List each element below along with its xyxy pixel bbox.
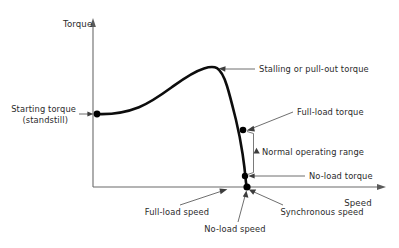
no-load-speed-label: No-load speed bbox=[204, 224, 265, 234]
full-load-speed-arrowhead bbox=[219, 189, 227, 195]
normal-operating-range-bracket bbox=[247, 132, 260, 175]
starting-torque-label-line1: Starting torque bbox=[11, 104, 76, 114]
synchronous-speed-point bbox=[243, 183, 250, 190]
starting-torque-point bbox=[94, 111, 101, 118]
no-load-speed-leader bbox=[238, 191, 248, 222]
synchronous-speed-leader-line bbox=[254, 192, 283, 205]
no-load-speed-leader-line bbox=[238, 196, 245, 222]
no-load-speed-arrowhead bbox=[243, 191, 249, 198]
synchronous-speed-leader bbox=[249, 189, 283, 205]
torque-speed-curve bbox=[97, 67, 247, 187]
no-load-torque-point bbox=[242, 173, 248, 179]
full-load-torque-leader bbox=[247, 112, 293, 131]
normal-operating-range-label: Normal operating range bbox=[262, 147, 364, 157]
marker-group bbox=[94, 111, 251, 191]
full-load-speed-label: Full-load speed bbox=[145, 207, 209, 217]
full-load-speed-leader-line bbox=[180, 191, 222, 205]
x-axis-arrowhead bbox=[377, 184, 386, 190]
normal-operating-range-bracket-path bbox=[247, 132, 254, 175]
diagram-canvas: Torque Speed Starting torque (standstill… bbox=[0, 0, 399, 248]
normal-operating-range-arrowhead bbox=[254, 148, 260, 154]
synchronous-speed-label: Synchronous speed bbox=[280, 207, 363, 217]
stalling-torque-leader bbox=[219, 66, 255, 72]
full-load-torque-point bbox=[240, 127, 247, 134]
stalling-torque-label: Stalling or pull-out torque bbox=[259, 64, 369, 74]
starting-torque-label-line2: (standstill) bbox=[22, 115, 68, 125]
full-load-speed-leader bbox=[180, 189, 227, 205]
starting-torque-leader bbox=[79, 112, 93, 117]
full-load-torque-leader-line bbox=[252, 112, 293, 128]
axis-group bbox=[90, 18, 386, 190]
curve-group bbox=[97, 67, 247, 187]
no-load-torque-leader bbox=[248, 174, 305, 179]
torque-speed-diagram: Torque Speed Starting torque (standstill… bbox=[0, 0, 399, 248]
no-load-torque-label: No-load torque bbox=[309, 171, 373, 181]
y-axis-label: Torque bbox=[62, 19, 92, 29]
full-load-torque-label: Full-load torque bbox=[297, 107, 364, 117]
full-load-torque-arrowhead bbox=[247, 126, 255, 132]
